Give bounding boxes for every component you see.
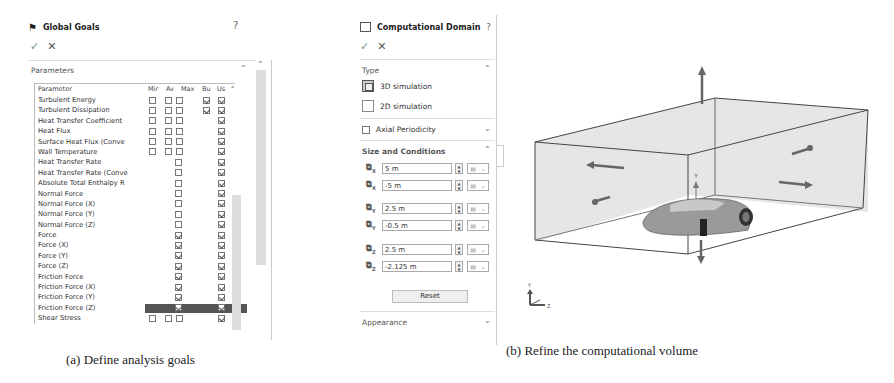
table-row[interactable]: Force — [35, 230, 235, 240]
col-av[interactable]: Av — [166, 84, 174, 94]
min-checkbox[interactable] — [149, 148, 156, 155]
expand-appearance-icon[interactable]: ⌄ — [484, 316, 491, 325]
max-checkbox[interactable] — [176, 128, 183, 135]
goal-checkbox[interactable] — [175, 169, 182, 176]
use-for-convergence-checkbox[interactable] — [218, 128, 225, 135]
use-for-convergence-checkbox[interactable] — [218, 273, 225, 280]
dependency-dropdown[interactable]: ▤⌄ — [467, 203, 489, 214]
size-value-input[interactable]: 2.5 m — [382, 203, 452, 214]
col-max[interactable]: Max — [181, 84, 194, 94]
av-checkbox[interactable] — [165, 138, 172, 145]
table-row[interactable]: Heat Transfer Coefficient — [35, 116, 235, 126]
use-for-convergence-checkbox[interactable] — [218, 117, 225, 124]
table-row[interactable]: Friction Force (Y) — [35, 292, 235, 302]
outer-scrollbar[interactable] — [256, 70, 266, 265]
help-icon[interactable]: ? — [486, 22, 491, 32]
use-for-convergence-checkbox[interactable] — [218, 232, 225, 239]
min-checkbox[interactable] — [149, 107, 156, 114]
goal-checkbox[interactable] — [175, 211, 182, 218]
max-checkbox[interactable] — [176, 107, 183, 114]
goal-checkbox[interactable] — [175, 304, 182, 311]
av-checkbox[interactable] — [165, 117, 172, 124]
size-value-input[interactable]: 5 m — [382, 163, 452, 174]
table-row[interactable]: Turbulent Energy — [35, 95, 235, 105]
table-row[interactable]: Friction Force (X) — [35, 282, 235, 292]
dependency-dropdown[interactable]: ▤⌄ — [467, 220, 489, 231]
size-value-input[interactable]: -5 m — [382, 180, 452, 191]
table-scrollbar[interactable] — [232, 195, 241, 330]
table-row[interactable]: Wall Temperature — [35, 147, 235, 157]
table-row[interactable]: Heat Transfer Rate — [35, 157, 235, 167]
dependency-dropdown[interactable]: ▤⌄ — [467, 163, 489, 174]
use-for-convergence-checkbox[interactable] — [218, 304, 225, 311]
size-value-input[interactable]: -2.125 m — [382, 261, 452, 272]
table-row[interactable]: Normal Force (X) — [35, 199, 235, 209]
table-row[interactable]: Heat Transfer Rate (Conve — [35, 168, 235, 178]
table-row[interactable]: Shear Stress — [35, 313, 235, 323]
collapse-parameters-icon[interactable]: ⌃ — [240, 64, 247, 73]
max-checkbox[interactable] — [176, 117, 183, 124]
table-row[interactable]: Friction Force (Z) — [35, 303, 235, 313]
use-for-convergence-checkbox[interactable] — [218, 190, 225, 197]
min-checkbox[interactable] — [149, 97, 156, 104]
size-value-input[interactable]: 2.5 m — [382, 244, 452, 255]
min-checkbox[interactable] — [149, 315, 156, 322]
use-for-convergence-checkbox[interactable] — [218, 284, 225, 291]
use-for-convergence-checkbox[interactable] — [218, 211, 225, 218]
3d-simulation-option[interactable]: 3D simulation — [362, 80, 432, 92]
use-for-convergence-checkbox[interactable] — [218, 107, 225, 114]
goal-checkbox[interactable] — [175, 190, 182, 197]
max-checkbox[interactable] — [176, 138, 183, 145]
use-for-convergence-checkbox[interactable] — [218, 221, 225, 228]
bulk-checkbox[interactable] — [203, 107, 210, 114]
viewport-3d[interactable]: Y Y Z — [500, 0, 894, 340]
table-row[interactable]: Force (X) — [35, 240, 235, 250]
axial-periodicity-checkbox[interactable] — [362, 126, 370, 134]
goal-checkbox[interactable] — [175, 252, 182, 259]
max-checkbox[interactable] — [176, 97, 183, 104]
use-for-convergence-checkbox[interactable] — [218, 294, 225, 301]
goal-checkbox[interactable] — [175, 159, 182, 166]
av-checkbox[interactable] — [165, 128, 172, 135]
spinner-icon[interactable]: ▲▼ — [455, 220, 463, 231]
scroll-up-icon[interactable]: ⌃ — [257, 60, 264, 69]
use-for-convergence-checkbox[interactable] — [218, 169, 225, 176]
col-parameter[interactable]: Parameter — [38, 84, 72, 94]
spinner-icon[interactable]: ▲▼ — [455, 261, 463, 272]
use-for-convergence-checkbox[interactable] — [218, 138, 225, 145]
table-row[interactable]: Heat Flux — [35, 126, 235, 136]
dependency-dropdown[interactable]: ▤⌄ — [467, 180, 489, 191]
ok-button[interactable]: ✓ — [360, 40, 369, 53]
ok-button[interactable]: ✓ — [30, 40, 39, 53]
scroll-up-icon[interactable]: ⌃ — [230, 84, 235, 94]
min-checkbox[interactable] — [149, 117, 156, 124]
size-value-input[interactable]: -0.5 m — [382, 220, 452, 231]
use-for-convergence-checkbox[interactable] — [218, 148, 225, 155]
use-for-convergence-checkbox[interactable] — [218, 242, 225, 249]
bulk-checkbox[interactable] — [203, 97, 210, 104]
col-min[interactable]: Mir — [148, 84, 158, 94]
spinner-icon[interactable]: ▲▼ — [455, 163, 463, 174]
goal-checkbox[interactable] — [175, 273, 182, 280]
min-checkbox[interactable] — [149, 128, 156, 135]
cancel-button[interactable]: ✕ — [47, 40, 56, 53]
dependency-dropdown[interactable]: ▤⌄ — [467, 244, 489, 255]
axial-periodicity-toggle[interactable]: Axial Periodicity — [362, 125, 436, 134]
max-checkbox[interactable] — [176, 148, 183, 155]
table-row[interactable]: Turbulent Dissipation — [35, 105, 235, 115]
av-checkbox[interactable] — [165, 148, 172, 155]
table-row[interactable]: Force (Y) — [35, 251, 235, 261]
table-row[interactable]: Normal Force — [35, 189, 235, 199]
goal-checkbox[interactable] — [175, 200, 182, 207]
goal-checkbox[interactable] — [175, 284, 182, 291]
min-checkbox[interactable] — [149, 138, 156, 145]
goal-checkbox[interactable] — [175, 232, 182, 239]
table-row[interactable]: Normal Force (Z) — [35, 220, 235, 230]
use-for-convergence-checkbox[interactable] — [218, 200, 225, 207]
table-row[interactable]: Friction Force — [35, 272, 235, 282]
collapse-size-icon[interactable]: ⌃ — [484, 145, 491, 154]
col-use[interactable]: Us — [217, 84, 225, 94]
av-checkbox[interactable] — [165, 107, 172, 114]
spinner-icon[interactable]: ▲▼ — [455, 203, 463, 214]
goal-checkbox[interactable] — [175, 180, 182, 187]
